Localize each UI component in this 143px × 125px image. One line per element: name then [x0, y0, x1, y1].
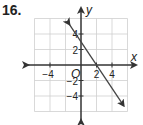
svg-text:2: 2 [94, 69, 100, 80]
svg-text:2: 2 [72, 45, 78, 56]
coordinate-graph: −42442−2−4 y x O [0, 0, 143, 125]
y-axis-label: y [85, 3, 93, 17]
x-axis-label: x [130, 50, 138, 64]
svg-text:−4: −4 [42, 69, 54, 80]
svg-text:−4: −4 [67, 91, 79, 102]
svg-text:4: 4 [109, 69, 115, 80]
origin-label: O [71, 67, 80, 81]
